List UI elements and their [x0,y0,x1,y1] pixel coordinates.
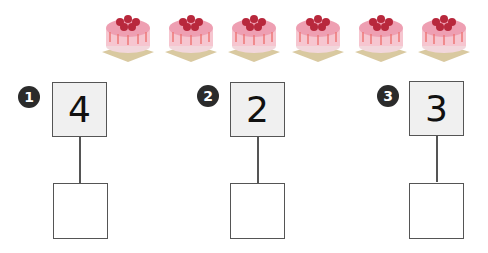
cake-row [98,6,478,64]
connector-line [257,137,259,183]
cake-icon [98,6,158,64]
cake-icon [288,6,348,64]
given-number-box: 2 [230,82,285,137]
cake-icon [161,6,221,64]
answer-box[interactable] [53,183,108,239]
cake-icon [351,6,411,64]
cake-icon [224,6,284,64]
answer-box[interactable] [409,183,464,239]
problem-number-badge: 3 [377,85,399,107]
cake-icon [414,6,474,64]
connector-line [79,137,81,183]
given-number-box: 4 [52,82,107,137]
connector-line [436,136,438,182]
answer-box[interactable] [230,183,285,239]
given-number-box: 3 [409,81,464,136]
problem-number-badge: 1 [18,86,40,108]
problem-number-badge: 2 [197,85,219,107]
